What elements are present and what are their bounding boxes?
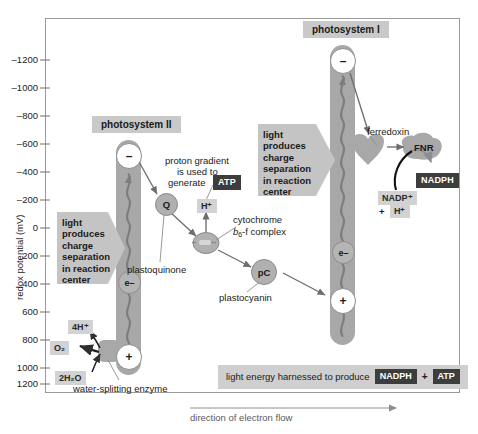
y-tick-label: –1000 [0, 82, 38, 93]
plastoquinone-label: plastoquinone [127, 264, 186, 275]
y-tick-label: 0 [0, 222, 38, 233]
psi-plus-circle: + [330, 288, 356, 314]
proton-gradient-line2: is used to [177, 166, 218, 177]
y-tick-label: 200 [0, 250, 38, 261]
nadp-plus-tag: NADP⁺ [378, 191, 417, 205]
proton-gradient-line1: proton gradient [165, 155, 229, 166]
cytochrome-complex-label-line1: cytochrome [233, 214, 282, 225]
photosystem-2-title: photosystem II [92, 116, 181, 133]
y-tick-label: –1200 [0, 54, 38, 65]
psii-minus-circle: – [116, 143, 142, 169]
psi-callout-text: light produces charge separation in reac… [263, 129, 325, 197]
cytochrome-b-subscript: 6 [238, 231, 242, 238]
ferredoxin-label: ferredoxin [367, 126, 409, 137]
proton-tag-nadph: H⁺ [390, 204, 410, 218]
y-tick-label: –600 [0, 138, 38, 149]
nadph-badge: NADPH [416, 173, 459, 188]
y-tick-label: 800 [0, 334, 38, 345]
psi-minus-circle: – [330, 48, 356, 74]
proton-tag-gradient: H⁺ [197, 199, 217, 213]
summary-banner: light energy harnessed to produce NADPH … [218, 365, 468, 389]
proton-gradient-line3: generate [168, 177, 206, 188]
photosystem-1-title: photosystem I [303, 21, 389, 38]
electron-flow-label: direction of electron flow [190, 412, 292, 423]
psii-plus-circle: + [116, 344, 142, 370]
y-tick-label: –800 [0, 110, 38, 121]
cytochrome-complex-label-line2: b6-f complex [233, 226, 286, 237]
figure-canvas: redox potential (mV) –1200 –1000 –800 –6… [0, 0, 478, 434]
summary-banner-text: light energy harnessed to produce [226, 371, 370, 382]
atp-badge-gradient: ATP [213, 175, 241, 190]
four-protons-tag: 4H⁺ [68, 320, 93, 334]
y-tick-label: –400 [0, 166, 38, 177]
y-tick-label: 600 [0, 306, 38, 317]
plastoquinone-symbol: Q [155, 193, 178, 216]
summary-nadph-badge: NADPH [375, 369, 417, 384]
plastocyanin-label: plastocyanin [219, 292, 272, 303]
fnr-label: FNR [414, 142, 434, 153]
oxygen-tag: O₂ [50, 341, 69, 355]
psi-electron-circle: e– [332, 241, 355, 264]
summary-atp-badge: ATP [433, 369, 460, 384]
y-tick-label: 400 [0, 278, 38, 289]
y-tick-label: 1000 [0, 362, 38, 373]
y-tick-label: 1200 [0, 378, 38, 389]
water-splitting-enzyme-label: water-splitting enzyme [73, 383, 168, 394]
cytochrome-f-complex-text: -f complex [242, 226, 286, 237]
psii-callout-text: light produces charge separation in reac… [62, 217, 122, 285]
plastocyanin-symbol: pC [251, 259, 277, 285]
nadph-plus-sign: + [379, 206, 385, 217]
y-tick-label: –200 [0, 194, 38, 205]
summary-plus-sign: + [422, 371, 428, 382]
